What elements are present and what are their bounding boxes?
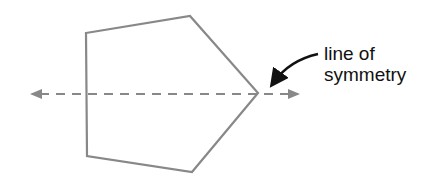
symmetry-arrow-right-icon: [288, 89, 300, 99]
pointer-arrow-icon: [274, 54, 318, 82]
symmetry-label: line of symmetry: [324, 43, 406, 85]
diagram-svg: [0, 0, 445, 180]
diagram-canvas: line of symmetry: [0, 0, 445, 180]
label-line-2: symmetry: [324, 64, 406, 85]
symmetry-arrow-left-icon: [30, 89, 42, 99]
label-line-1: line of: [324, 43, 406, 64]
